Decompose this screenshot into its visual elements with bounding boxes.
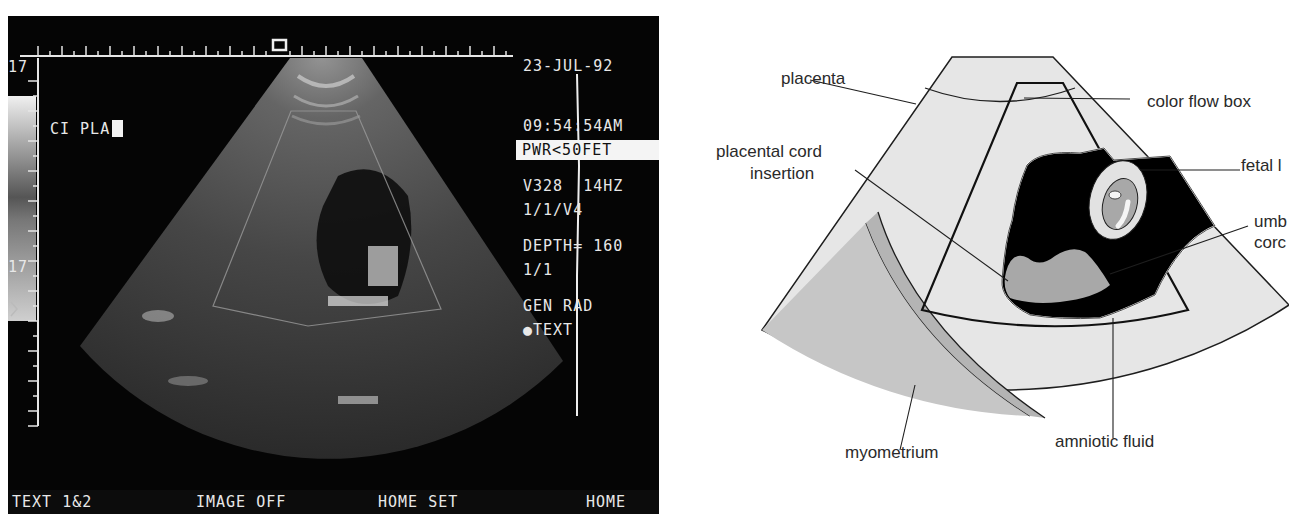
setting-line-2: 1/1 [523,260,583,280]
softkey-image-off[interactable]: IMAGE OFF [196,490,286,514]
label-placental-cord-insertion-line1: placental cord [716,142,822,162]
softkey-text[interactable]: TEXT 1&2 [12,490,92,514]
softkey-home-set[interactable]: HOME SET [378,490,458,514]
softkey-home[interactable]: HOME [586,490,626,514]
setting-line-1: 1/1/V4 [523,200,583,220]
label-umbilical-cord-line2: corc [1254,233,1286,253]
annotation-text[interactable]: CI PLA [50,120,123,138]
annotation-label: CI PLA [50,120,110,138]
depth-scale-top: 17 [8,58,28,76]
ultrasound-screen: 17 17 CI PLA 23-JUL-92 09:54:54AM V328 1… [8,16,659,514]
label-color-flow-box: color flow box [1147,92,1251,112]
text-cursor [112,120,123,137]
label-fetal-limb: fetal l [1241,156,1282,176]
text-mode-indicator[interactable]: ●TEXT [523,320,583,340]
label-placental-cord-insertion-line2: insertion [750,164,814,184]
softkey-bar: TEXT 1&2 IMAGE OFF HOME SET HOME [8,490,659,514]
power-setting[interactable]: PWR<50FET [516,140,659,160]
focal-zone-marker[interactable] [273,40,286,50]
scan-date: 23-JUL-92 [523,56,623,76]
settings-panel: 1/1/V4 1/1 ●TEXT [523,160,583,380]
label-myometrium: myometrium [845,443,939,463]
depth-scale-middle: 17 [8,258,28,276]
scan-time: 09:54:54AM [523,116,623,136]
label-amniotic-fluid: amniotic fluid [1055,432,1154,452]
label-placenta: placenta [781,69,845,89]
label-umbilical-cord-line1: umb [1254,212,1287,232]
grayscale-bar [8,96,36,321]
